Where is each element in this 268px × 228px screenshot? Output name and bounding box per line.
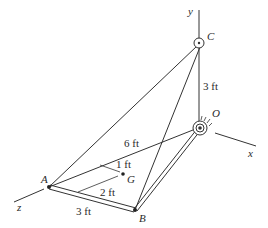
point-A (47, 185, 51, 189)
edge-AB-outer (50, 185, 136, 208)
axis-label-x: x (247, 147, 253, 159)
dim-G-2ft: 2 ft (100, 186, 115, 198)
point-B (133, 208, 137, 212)
pulley-C (194, 38, 204, 48)
label-G: G (127, 173, 135, 185)
point-G (121, 172, 125, 176)
label-B: B (139, 212, 146, 224)
coordinate-axes (14, 10, 256, 202)
axis-label-y: y (187, 5, 193, 17)
cables (49, 46, 200, 210)
label-A: A (40, 173, 48, 185)
cable-CB (135, 47, 200, 210)
axis-label-z: z (16, 201, 22, 213)
dim-OC: 3 ft (203, 80, 218, 92)
dim-G-1ft: 1 ft (116, 158, 131, 170)
support-O (193, 116, 212, 135)
x-axis (215, 133, 256, 146)
edge-AB-inner (49, 189, 134, 212)
dim-AO: 6 ft (124, 137, 139, 149)
label-C: C (207, 30, 215, 42)
diagram-canvas: y x z C O A B G 3 ft 6 ft 3 ft 1 ft 2 ft (0, 0, 268, 228)
dim-AB: 3 ft (76, 205, 91, 217)
edge-BO-inner (137, 131, 200, 211)
label-O: O (212, 107, 220, 119)
